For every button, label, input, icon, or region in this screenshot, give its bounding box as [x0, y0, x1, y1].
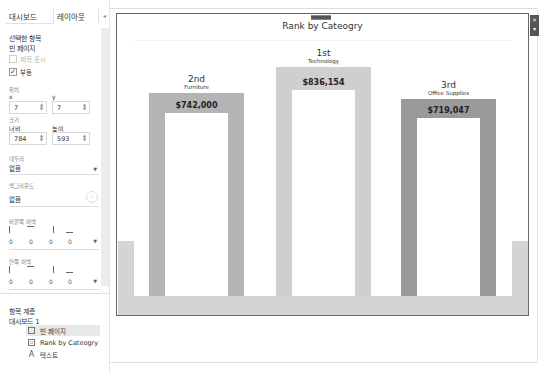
x-stepper[interactable]: 7 ▲▼ — [9, 101, 47, 114]
outer-padding-label: 바깥쪽 여백 — [9, 218, 36, 226]
value-label: $742,000 — [149, 101, 244, 110]
sidebar-scrollbar[interactable] — [101, 28, 109, 286]
tree-item-blank[interactable]: 빈 페이지 — [26, 325, 100, 336]
value-label: $836,154 — [276, 78, 371, 87]
padding-left-value[interactable]: 0 — [9, 238, 13, 245]
selected-item-name: 빈 페이지 — [9, 43, 35, 53]
bar-office-supplies-inner — [417, 118, 480, 296]
sheet-icon: ▫ — [28, 339, 35, 346]
bar-technology-inner — [292, 90, 355, 296]
padding-bottom-icon — [66, 226, 73, 233]
category-label: Technology — [276, 58, 371, 64]
padding-bottom-value[interactable]: 0 — [68, 238, 72, 245]
height-stepper[interactable]: 593 ▲▼ — [52, 132, 90, 145]
sidebar-tabs: 대시보드 레이아웃 ◂ — [6, 9, 110, 27]
selected-item-heading: 선택한 항목 — [9, 33, 41, 43]
padding-top-icon — [27, 226, 34, 233]
width-value: 784 — [14, 135, 26, 143]
dropdown-arrow-icon: ▼ — [93, 166, 97, 172]
divider — [0, 293, 110, 294]
object-controls[interactable]: × ▾ — [530, 15, 539, 36]
tree-item-sheet[interactable]: ▫ Rank by Cateogry — [26, 337, 100, 348]
inner-padding-label: 안쪽 여백 — [9, 258, 31, 266]
padding-top-value[interactable]: 0 — [29, 278, 33, 285]
padding-right-value[interactable]: 0 — [49, 278, 53, 285]
y-stepper[interactable]: 7 ▲▼ — [52, 101, 90, 114]
padding-top-icon — [27, 266, 34, 273]
layout-sidebar: 대시보드 레이아웃 ◂ 선택한 항목 빈 페이지 제목 표시 ✓ 부동 위치 x… — [0, 0, 110, 374]
width-stepper[interactable]: 784 ▲▼ — [9, 132, 47, 145]
move-handle-icon[interactable] — [311, 15, 331, 20]
checkbox-box — [9, 55, 17, 63]
close-icon[interactable]: × — [530, 15, 539, 24]
tree-item-label: 텍스트 — [40, 350, 58, 360]
rank-label: 1st — [276, 48, 371, 58]
floor-base — [118, 296, 528, 315]
stepper-arrows-icon[interactable]: ▲▼ — [83, 103, 86, 111]
hierarchy-heading: 항목 계층 — [9, 306, 35, 316]
floating-label: 부동 — [20, 67, 32, 77]
padding-bottom-value[interactable]: 0 — [68, 278, 72, 285]
y-label: y — [52, 93, 56, 100]
blank-icon — [28, 327, 35, 334]
stepper-arrows-icon[interactable]: ▲▼ — [83, 134, 86, 142]
more-options-icon[interactable]: ▾ — [530, 24, 539, 33]
tab-dashboard[interactable]: 대시보드 — [6, 9, 54, 24]
color-picker-icon[interactable]: ⁄ — [86, 191, 98, 203]
background-label: 백그라운드 — [9, 182, 34, 190]
tab-layout[interactable]: 레이아웃 — [54, 9, 99, 24]
padding-left-value[interactable]: 0 — [9, 278, 13, 285]
chart-title: Rank by Cateogry — [116, 21, 529, 31]
height-value: 593 — [57, 135, 69, 143]
outer-padding-control[interactable]: 0 0 0 0 ▼ — [9, 226, 99, 250]
padding-right-value[interactable]: 0 — [49, 238, 53, 245]
show-title-checkbox[interactable]: 제목 표시 — [9, 54, 46, 64]
x-value: 7 — [14, 104, 18, 112]
checkmark-icon: ✓ — [9, 68, 17, 76]
category-label: Furniture — [149, 84, 244, 90]
padding-bottom-icon — [66, 266, 73, 273]
border-value: 없음 — [9, 165, 21, 173]
stepper-arrows-icon[interactable]: ▲▼ — [40, 134, 43, 142]
dropdown-arrow-icon[interactable]: ▼ — [93, 238, 97, 244]
rank-label: 2nd — [149, 74, 244, 84]
tree-item-text[interactable]: A 텍스트 — [26, 349, 100, 360]
rank-label: 3rd — [401, 80, 496, 90]
bar-furniture-inner — [165, 113, 228, 296]
category-label: Office Supplies — [401, 90, 496, 96]
collapse-sidebar-icon[interactable]: ◂ — [99, 9, 110, 24]
x-label: x — [9, 93, 13, 100]
padding-right-icon — [47, 226, 54, 233]
size-label: 크기 — [9, 116, 19, 124]
floor-right — [512, 241, 528, 296]
floating-checkbox[interactable]: ✓ 부동 — [9, 67, 32, 77]
tree-item-label: 빈 페이지 — [40, 326, 66, 336]
floor-left — [118, 241, 134, 296]
show-title-label: 제목 표시 — [20, 54, 46, 64]
background-value: 없음 — [9, 196, 21, 204]
text-icon: A — [28, 351, 35, 358]
padding-left-icon — [9, 226, 16, 233]
inner-padding-control[interactable]: 0 0 0 0 ▼ — [9, 266, 99, 290]
stepper-arrows-icon[interactable]: ▲▼ — [40, 103, 43, 111]
padding-top-value[interactable]: 0 — [29, 238, 33, 245]
dropdown-arrow-icon[interactable]: ▼ — [93, 278, 97, 284]
tree-item-label: Rank by Cateogry — [40, 339, 98, 347]
border-label: 테두리 — [9, 155, 24, 163]
padding-right-icon — [47, 266, 54, 273]
value-label: $719,047 — [401, 106, 496, 115]
border-select[interactable]: 없음 ▼ — [9, 163, 99, 175]
background-select[interactable]: 없음 ⁄ — [9, 194, 99, 207]
y-value: 7 — [57, 104, 61, 112]
padding-left-icon — [9, 266, 16, 273]
